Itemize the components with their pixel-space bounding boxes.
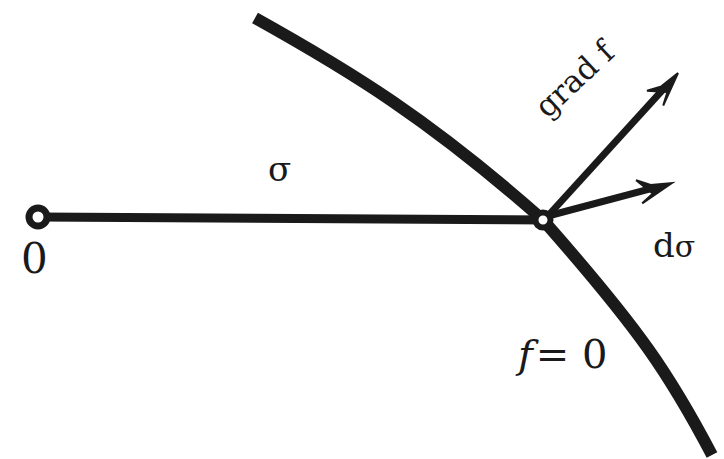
- diagram-vector-layer: [0, 0, 724, 459]
- level-set-curve: [255, 18, 712, 455]
- d-sigma-label: dσ: [653, 228, 695, 262]
- sigma-segment-line: [38, 217, 552, 220]
- d-sigma-label-sigma: σ: [675, 229, 695, 264]
- level-set-label-equals-zero: = 0: [536, 331, 608, 377]
- level-set-label-f: f: [518, 331, 536, 377]
- intersection-open-circle-marker: [536, 213, 551, 228]
- d-sigma-label-d: d: [653, 225, 675, 265]
- sigma-curve-label: σ: [268, 152, 291, 186]
- origin-label: 0: [21, 238, 48, 280]
- diagram-canvas: 0 σ grad f dσ f= 0: [0, 0, 724, 459]
- level-set-label: f= 0: [518, 334, 608, 374]
- origin-open-circle-marker: [29, 208, 47, 226]
